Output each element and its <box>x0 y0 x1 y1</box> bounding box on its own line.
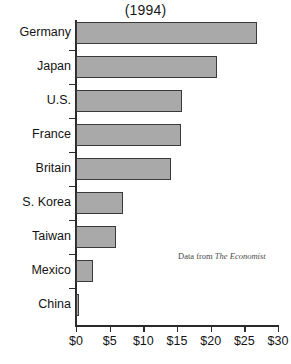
source-note-publication: The Economist <box>215 251 266 261</box>
y-axis-tick <box>69 254 76 255</box>
bar-fill <box>76 22 257 44</box>
y-axis-tick <box>69 152 76 153</box>
y-axis-tick <box>69 50 76 51</box>
bar-mexico <box>76 260 93 282</box>
category-label-u-s: U.S. <box>0 93 71 107</box>
category-label-s-korea: S. Korea <box>0 195 71 209</box>
category-label-taiwan: Taiwan <box>0 229 71 243</box>
x-axis-tick <box>177 326 178 332</box>
y-axis-tick <box>69 288 76 289</box>
category-label-france: France <box>0 127 71 141</box>
chart-title: (1994) <box>0 2 291 18</box>
category-label-britain: Britain <box>0 161 71 175</box>
bar-chart: (1994) GermanyJapanU.S.FranceBritainS. K… <box>0 0 291 364</box>
category-label-china: China <box>0 297 71 311</box>
bar-fill <box>76 226 116 248</box>
x-axis-tick <box>244 326 245 332</box>
bar-britain <box>76 158 171 180</box>
bar-fill <box>76 294 79 316</box>
category-label-germany: Germany <box>0 25 71 39</box>
x-axis-tick <box>278 326 279 332</box>
y-axis-tick <box>69 220 76 221</box>
bar-china <box>76 294 79 316</box>
x-axis-tick-label: $10 <box>133 334 154 348</box>
y-axis-tick <box>69 84 76 85</box>
y-axis-tick <box>69 118 76 119</box>
x-axis-tick-label: $5 <box>103 334 117 348</box>
x-axis-tick <box>76 326 77 332</box>
bar-fill <box>76 260 93 282</box>
bar-s-korea <box>76 192 123 214</box>
bar-taiwan <box>76 226 116 248</box>
category-label-mexico: Mexico <box>0 263 71 277</box>
x-axis-tick-label: $15 <box>167 334 188 348</box>
bar-u-s <box>76 90 182 112</box>
x-axis-tick-label: $25 <box>234 334 255 348</box>
x-axis-tick-label: $0 <box>69 334 83 348</box>
x-axis-tick <box>211 326 212 332</box>
source-note: Data from The Economist <box>178 251 266 261</box>
bar-fill <box>76 56 217 78</box>
x-axis-tick <box>110 326 111 332</box>
bar-fill <box>76 124 181 146</box>
x-axis-tick-label: $30 <box>268 334 289 348</box>
y-axis-tick <box>69 186 76 187</box>
bar-germany <box>76 22 257 44</box>
x-axis-tick <box>143 326 144 332</box>
category-label-japan: Japan <box>0 59 71 73</box>
bar-france <box>76 124 181 146</box>
x-axis-tick-label: $20 <box>200 334 221 348</box>
source-note-prefix: Data from <box>178 251 215 261</box>
bar-fill <box>76 90 182 112</box>
bar-fill <box>76 158 171 180</box>
bar-fill <box>76 192 123 214</box>
bar-japan <box>76 56 217 78</box>
